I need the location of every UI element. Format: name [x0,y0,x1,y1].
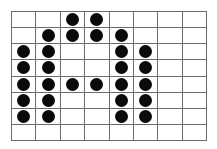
grid-cell [134,93,158,109]
dot [17,78,30,91]
grid-cell [61,77,85,93]
grid-cell [85,28,109,44]
grid-cell [12,77,36,93]
dot [42,110,55,123]
grid-cell [61,60,85,76]
grid-cell [134,28,158,44]
grid-cell [134,125,158,141]
grid-cell [158,93,182,109]
grid-cell [134,44,158,60]
grid-cell [110,125,134,141]
grid-cell [110,77,134,93]
grid-cell [85,109,109,125]
grid-cell [134,77,158,93]
grid-cell [85,93,109,109]
dot [90,78,103,91]
dot [115,61,128,74]
dot [139,94,152,107]
grid-cell [61,125,85,141]
grid-cell [85,125,109,141]
dot [139,110,152,123]
grid-cell [183,60,207,76]
grid-cell [36,12,60,28]
dot [66,13,79,26]
grid-cell [12,60,36,76]
grid-cell [110,60,134,76]
grid-cell [36,109,60,125]
grid-cell [110,28,134,44]
dot [42,29,55,42]
grid-cell [134,12,158,28]
grid-cell [12,125,36,141]
dot [139,61,152,74]
dot [17,45,30,58]
dot [17,94,30,107]
dot [139,45,152,58]
grid-cell [36,77,60,93]
dot [115,29,128,42]
grid-cell [183,12,207,28]
grid-cell [85,77,109,93]
grid-cell [158,28,182,44]
dot [66,78,79,91]
dot [115,78,128,91]
grid-cell [183,77,207,93]
grid-cell [12,109,36,125]
grid-cell [61,12,85,28]
grid-cell [183,125,207,141]
dot-matrix-grid [11,11,207,141]
grid-cell [36,28,60,44]
dot [42,61,55,74]
dot [90,13,103,26]
grid-cell [61,44,85,60]
grid-cell [85,44,109,60]
grid-cell [183,44,207,60]
grid-cell [134,60,158,76]
grid-cell [110,44,134,60]
grid-cell [158,77,182,93]
grid-cell [61,93,85,109]
grid-cell [85,12,109,28]
grid-cell [158,109,182,125]
grid-cell [158,12,182,28]
dot [66,29,79,42]
dot [115,94,128,107]
grid-cell [12,44,36,60]
grid-cell [36,60,60,76]
grid-cell [134,109,158,125]
grid-cell [110,12,134,28]
dot [42,45,55,58]
grid-cell [158,60,182,76]
grid-cell [12,93,36,109]
grid-cell [61,28,85,44]
grid-cell [183,109,207,125]
dot [139,78,152,91]
dot [17,110,30,123]
grid-cell [183,93,207,109]
grid-cell [12,28,36,44]
grid-cell [12,12,36,28]
dot [42,94,55,107]
grid-cell [110,93,134,109]
grid-cell [183,28,207,44]
grid-cell [85,60,109,76]
grid-cell [36,44,60,60]
grid-cell [36,125,60,141]
grid-cell [158,44,182,60]
dot [90,29,103,42]
dot [115,110,128,123]
grid-cell [110,109,134,125]
grid-cell [61,109,85,125]
dot [17,61,30,74]
dot [115,45,128,58]
grid-cell [158,125,182,141]
dot [42,78,55,91]
grid-cell [36,93,60,109]
